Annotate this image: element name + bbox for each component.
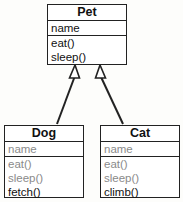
methods-section: eat() sleep() climb(): [101, 157, 179, 199]
attributes-section: name: [48, 21, 126, 36]
attributes-section: name: [5, 142, 83, 157]
methods-section: eat() sleep() fetch(): [5, 157, 83, 199]
class-name: Dog: [5, 126, 83, 142]
inherited-attribute: name: [8, 142, 83, 156]
attributes-section: name: [101, 142, 179, 157]
methods-section: eat() sleep(): [48, 36, 126, 64]
class-name: Cat: [101, 126, 179, 142]
inherited-method: sleep(): [104, 171, 179, 185]
attribute: name: [51, 21, 126, 35]
inherited-attribute: name: [104, 142, 179, 156]
dog-to-pet-line: [57, 77, 75, 124]
inherited-method: eat(): [8, 157, 83, 171]
cat-to-pet-line: [101, 77, 123, 124]
class-name: Pet: [48, 5, 126, 21]
own-method: climb(): [104, 185, 179, 199]
method: eat(): [51, 36, 126, 50]
generalization-arrowhead-icon: [70, 65, 80, 78]
class-cat[interactable]: Cat name eat() sleep() climb(): [100, 125, 180, 198]
class-dog[interactable]: Dog name eat() sleep() fetch(): [4, 125, 84, 198]
own-method: fetch(): [8, 185, 83, 199]
class-pet[interactable]: Pet name eat() sleep(): [47, 4, 127, 65]
generalization-arrowhead-icon: [96, 65, 106, 78]
inherited-method: sleep(): [8, 171, 83, 185]
inherited-method: eat(): [104, 157, 179, 171]
method: sleep(): [51, 50, 126, 64]
